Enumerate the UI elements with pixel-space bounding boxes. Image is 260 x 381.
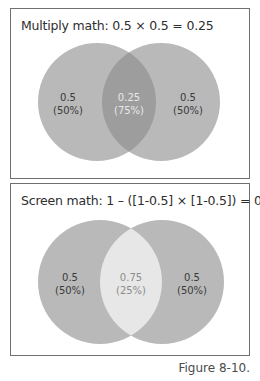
screen-venn-diagram: 0.5 (50%) 0.75 (25%) 0.5 (50%) — [11, 184, 251, 357]
overlap-percent: (75%) — [114, 105, 144, 116]
multiply-panel: Multiply math: 0.5 × 0.5 = 0.25 0.5 (50%… — [10, 8, 250, 179]
left-value: 0.5 — [62, 272, 78, 283]
overlap-value: 0.75 — [120, 272, 142, 283]
overlap-percent: (25%) — [116, 285, 146, 296]
left-percent: (50%) — [55, 285, 85, 296]
multiply-venn-diagram: 0.5 (50%) 0.25 (75%) 0.5 (50%) — [11, 9, 251, 180]
right-value: 0.5 — [180, 92, 196, 103]
figure-caption: Figure 8-10. — [178, 361, 250, 375]
overlap-value: 0.25 — [118, 92, 140, 103]
right-value: 0.5 — [184, 272, 200, 283]
right-percent: (50%) — [173, 105, 203, 116]
screen-panel: Screen math: 1 – ([1-0.5] × [1-0.5]) = 0… — [10, 183, 250, 356]
left-value: 0.5 — [60, 92, 76, 103]
right-percent: (50%) — [177, 285, 207, 296]
left-percent: (50%) — [53, 105, 83, 116]
